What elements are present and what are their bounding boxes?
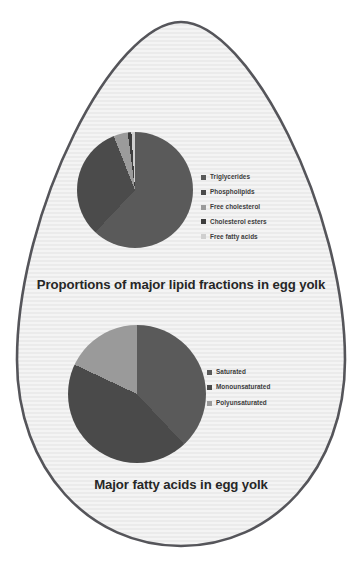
legend-item-monounsaturated[interactable]: Monounsaturated [207,384,270,390]
legend-fatty-acids: Saturated Monounsaturated Polyunsaturate… [207,369,270,415]
chart-title-lipid-fractions: Proportions of major lipid fractions in … [0,277,362,292]
legend-swatch-saturated [207,370,212,375]
legend-label-triglycerides: Triglycerides [210,174,250,180]
legend-swatch-free-fatty-acids [201,234,206,239]
legend-item-saturated[interactable]: Saturated [207,369,270,375]
legend-label-monounsaturated: Monounsaturated [216,384,270,390]
pie-chart-fatty-acids[interactable] [68,325,206,463]
legend-label-cholesterol-esters: Cholesterol esters [210,219,267,225]
legend-label-free-cholesterol: Free cholesterol [210,204,260,210]
legend-label-free-fatty-acids: Free fatty acids [210,234,258,240]
legend-item-phospholipids[interactable]: Phospholipids [201,189,267,195]
legend-swatch-free-cholesterol [201,205,206,210]
legend-swatch-cholesterol-esters [201,219,206,224]
legend-item-triglycerides[interactable]: Triglycerides [201,174,267,180]
legend-label-polyunsaturated: Polyunsaturated [216,400,267,406]
chart-title-fatty-acids: Major fatty acids in egg yolk [0,477,362,492]
legend-item-free-fatty-acids[interactable]: Free fatty acids [201,234,267,240]
pie-chart-lipid-fractions[interactable] [77,132,193,248]
legend-label-phospholipids: Phospholipids [210,189,255,195]
legend-item-free-cholesterol[interactable]: Free cholesterol [201,204,267,210]
legend-label-saturated: Saturated [216,369,246,375]
legend-swatch-phospholipids [201,190,206,195]
legend-swatch-monounsaturated [207,385,212,390]
legend-swatch-triglycerides [201,175,206,180]
legend-swatch-polyunsaturated [207,401,212,406]
legend-item-cholesterol-esters[interactable]: Cholesterol esters [201,219,267,225]
legend-item-polyunsaturated[interactable]: Polyunsaturated [207,400,270,406]
egg-yolk-composition-figure: Triglycerides Phospholipids Free cholest… [0,0,362,575]
legend-lipid-fractions: Triglycerides Phospholipids Free cholest… [201,174,267,249]
